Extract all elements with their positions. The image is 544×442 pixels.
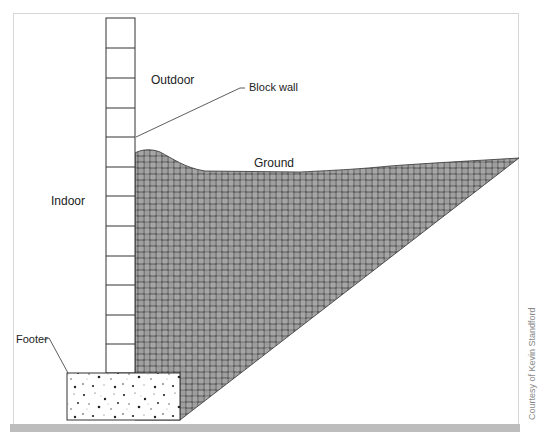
ground-label: Ground bbox=[254, 156, 294, 170]
retaining-wall-diagram bbox=[0, 0, 544, 442]
block-wall bbox=[106, 18, 135, 373]
outdoor-label: Outdoor bbox=[151, 73, 194, 87]
ground-soil bbox=[135, 150, 519, 420]
indoor-label: Indoor bbox=[51, 194, 85, 208]
footer-concrete bbox=[67, 373, 180, 420]
image-credit: Courtesy of Kevin Standford bbox=[527, 307, 537, 420]
block-wall-leader bbox=[136, 88, 245, 137]
block-wall-label: Block wall bbox=[249, 81, 298, 93]
footer-label: Footer bbox=[16, 333, 48, 345]
